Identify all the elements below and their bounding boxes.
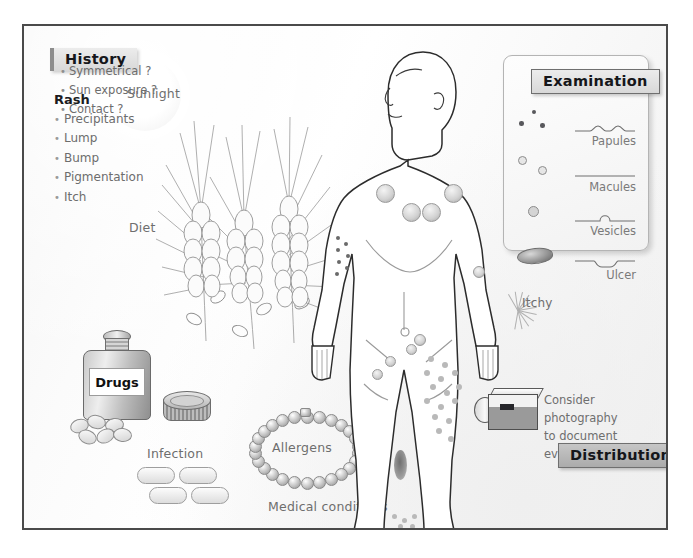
itchy-label: Itchy [522, 296, 553, 310]
lesion-blob [473, 266, 485, 278]
itchy-radiating-lines-icon [496, 288, 542, 334]
lesion-blob [414, 334, 426, 346]
lesion-blob [385, 356, 396, 367]
list-item: Lump [54, 129, 144, 148]
list-item: Sun exposure ? [60, 81, 157, 100]
examination-row-vesicles: Vesicles [504, 192, 648, 236]
lesion-blob [406, 344, 417, 355]
drugs-label: Drugs [89, 368, 145, 396]
examination-label: Ulcer [606, 268, 636, 282]
ray-line [514, 310, 518, 329]
cap-inner [170, 395, 204, 407]
lesion-blob [422, 203, 441, 222]
vesicles-art-icon [514, 198, 572, 228]
list-item: Bump [54, 149, 144, 168]
history-rash-list: Precipitants Lump Bump Pigmentation Itch [54, 110, 144, 207]
list-item: Itch [54, 188, 144, 207]
camera-body [488, 394, 538, 430]
lesion-blob [444, 184, 463, 203]
clinical-poster: History Rash Precipitants Lump Bump Pigm… [22, 24, 668, 530]
examination-label: Papules [592, 134, 636, 148]
distribution-panel: Symmetrical ? Sun exposure ? Contact ? [24, 26, 159, 115]
lesion-blob [402, 203, 421, 222]
drug-bottle-icon: Drugs [79, 330, 153, 418]
examination-panel: Examination Papules Macules [503, 55, 649, 251]
distribution-list: Symmetrical ? Sun exposure ? Contact ? [60, 62, 157, 119]
list-item: Contact ? [60, 100, 157, 119]
camera-viewfinder [500, 404, 514, 410]
list-item: Symmetrical ? [60, 62, 157, 81]
lesion-blob [376, 184, 395, 203]
camera-icon [474, 384, 540, 436]
bottle-cap-icon [163, 391, 209, 421]
examination-row-papules: Papules [504, 102, 648, 146]
examination-row-macules: Macules [504, 148, 648, 192]
list-item: Pigmentation [54, 168, 144, 187]
papules-art-icon [514, 108, 572, 138]
macules-art-icon [514, 154, 572, 184]
human-body-figure [292, 40, 522, 530]
examination-row-ulcer: Ulcer [504, 236, 648, 280]
distribution-header: Distribution [558, 443, 668, 468]
photography-line-1: Consider photography [544, 391, 666, 427]
ulcer-lesion [394, 450, 407, 480]
examination-header: Examination [531, 69, 660, 94]
infection-label: Infection [147, 446, 203, 461]
lesion-blob [372, 369, 383, 380]
ulcer-art-icon [514, 242, 572, 272]
